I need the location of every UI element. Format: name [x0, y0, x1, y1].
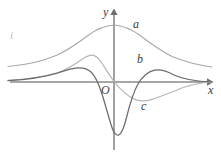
curve-a-path: [8, 25, 212, 67]
curve-b-path: [8, 68, 212, 135]
curve-b-label: b: [137, 53, 143, 65]
origin-label: O: [101, 84, 110, 96]
plot-canvas: [0, 0, 221, 158]
curve-c-label: c: [141, 100, 146, 112]
function-graph-figure: y x O a b c i: [0, 0, 221, 158]
y-axis: [110, 9, 117, 151]
stray-mark-label: i: [10, 30, 13, 41]
x-axis-label: x: [208, 84, 213, 96]
curve-a-label: a: [133, 18, 139, 30]
y-axis-label: y: [103, 6, 108, 18]
